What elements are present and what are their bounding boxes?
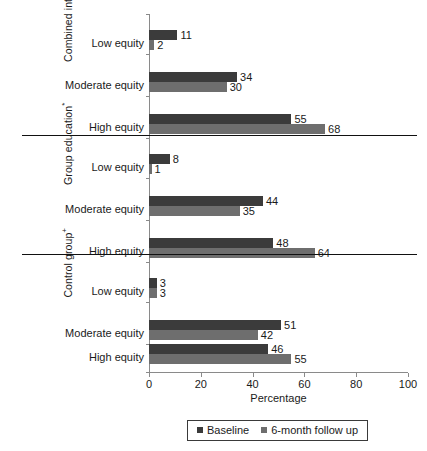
bar-value-followup: 55	[291, 354, 306, 364]
x-axis-tick-label: 100	[399, 378, 417, 390]
bar-value-baseline: 55	[291, 114, 306, 124]
bar-group-combined-high-equity: 55 68	[149, 114, 408, 136]
legend-swatch-icon	[197, 427, 203, 433]
bar-followup[interactable]	[149, 354, 291, 364]
bar-followup[interactable]	[149, 82, 227, 92]
legend-swatch-icon	[261, 427, 267, 433]
plot-area: 11 2 34 30 55 68 8 1 44 35	[149, 14, 408, 372]
bar-value-baseline: 48	[273, 238, 288, 248]
bar-value-followup: 68	[325, 124, 340, 134]
category-label-moderate-equity: Moderate equity	[48, 328, 144, 339]
legend-label: 6-month follow up	[271, 424, 358, 436]
bar-value-followup: 42	[258, 330, 273, 340]
bar-value-baseline: 8	[170, 154, 179, 164]
bar-followup[interactable]	[149, 206, 240, 216]
section-divider	[22, 254, 417, 255]
bar-value-baseline: 44	[263, 196, 278, 206]
bar-value-baseline: 46	[268, 344, 283, 354]
x-axis-title: Percentage	[149, 392, 408, 404]
bar-baseline[interactable]	[149, 114, 291, 124]
bar-value-followup: 3	[157, 288, 166, 298]
x-axis-line	[149, 372, 408, 373]
category-label-high-equity: High equity	[48, 246, 144, 257]
bar-group-control-moderate-equity: 51 42	[149, 320, 408, 342]
bar-followup[interactable]	[149, 124, 325, 134]
bar-group-control-low-equity: 3 3	[149, 278, 408, 300]
legend-item-baseline[interactable]: Baseline	[197, 424, 249, 436]
bar-followup[interactable]	[149, 248, 315, 258]
x-axis-tick-label: 80	[350, 378, 362, 390]
x-axis-tick	[149, 373, 150, 377]
bar-group-combined-moderate-equity: 34 30	[149, 72, 408, 94]
category-label-high-equity: High equity	[48, 122, 144, 133]
bar-baseline[interactable]	[149, 344, 268, 354]
x-axis-tick-label: 0	[146, 378, 152, 390]
category-label-moderate-equity: Moderate equity	[48, 204, 144, 215]
bar-group-education-low-equity: 8 1	[149, 154, 408, 176]
bar-baseline[interactable]	[149, 72, 237, 82]
x-axis-tick	[201, 373, 202, 377]
legend-label: Baseline	[207, 424, 249, 436]
x-axis-tick	[304, 373, 305, 377]
bar-baseline[interactable]	[149, 30, 177, 40]
x-axis-tick	[253, 373, 254, 377]
x-axis-tick-label: 60	[298, 378, 310, 390]
bar-value-baseline: 51	[281, 320, 296, 330]
bar-value-followup: 1	[152, 164, 161, 174]
bar-group-combined-low-equity: 11 2	[149, 30, 408, 52]
category-label-low-equity: Low equity	[48, 286, 144, 297]
bar-group-control-high-equity: 46 55	[149, 344, 408, 366]
bar-followup[interactable]	[149, 330, 258, 340]
bar-value-baseline: 11	[177, 30, 191, 40]
bar-value-followup: 64	[315, 248, 330, 258]
bar-followup[interactable]	[149, 288, 157, 298]
x-axis-tick-label: 20	[195, 378, 207, 390]
section-divider	[22, 135, 417, 136]
legend-item-followup[interactable]: 6-month follow up	[261, 424, 358, 436]
x-axis-tick	[408, 373, 409, 377]
bar-value-followup: 2	[154, 40, 163, 50]
grouped-bar-chart: Combined intervention* Group education* …	[0, 0, 427, 451]
category-label-low-equity: Low equity	[48, 38, 144, 49]
category-label-moderate-equity: Moderate equity	[48, 80, 144, 91]
bar-group-education-high-equity: 48 64	[149, 238, 408, 260]
bar-value-followup: 35	[240, 206, 255, 216]
category-label-column: Low equity Moderate equity High equity L…	[46, 14, 144, 372]
category-label-low-equity: Low equity	[48, 162, 144, 173]
category-label-high-equity: High equity	[48, 352, 144, 363]
bar-value-followup: 30	[227, 82, 242, 92]
x-axis-tick	[356, 373, 357, 377]
bar-group-education-moderate-equity: 44 35	[149, 196, 408, 218]
x-axis-tick-label: 40	[246, 378, 258, 390]
chart-legend: Baseline 6-month follow up	[187, 420, 368, 441]
bar-baseline[interactable]	[149, 238, 273, 248]
bar-baseline[interactable]	[149, 278, 157, 288]
